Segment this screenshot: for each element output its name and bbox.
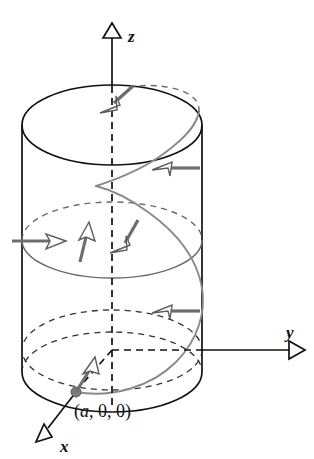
y-axis-label: y [284, 323, 294, 342]
tangent-vector-mid-center [79, 222, 95, 262]
y-axis-arrowhead-icon [289, 341, 305, 359]
z-axis-label: z [127, 27, 135, 46]
x-axis-label: x [59, 437, 69, 456]
helix-hidden-top-segment [126, 85, 199, 112]
tangent-vector-mid-right [110, 220, 138, 253]
x-axis-outer-solid [48, 392, 76, 428]
tangent-vector-lower-right [152, 305, 200, 319]
figure-root: z y x (a, 0, 0) [0, 0, 314, 459]
point-label-a: a [80, 401, 89, 421]
point-label-rest: , 0, 0) [89, 401, 131, 422]
z-axis-arrowhead-icon [103, 23, 121, 38]
point-a-label: (a, 0, 0) [74, 401, 131, 422]
tangent-vector-base [76, 357, 99, 392]
tangent-vector-upper-right [152, 162, 200, 176]
tangent-vector-mid-left [12, 234, 66, 249]
tangent-vector-top [100, 86, 133, 113]
cylinder-helix-diagram: z y x (a, 0, 0) [0, 0, 314, 459]
